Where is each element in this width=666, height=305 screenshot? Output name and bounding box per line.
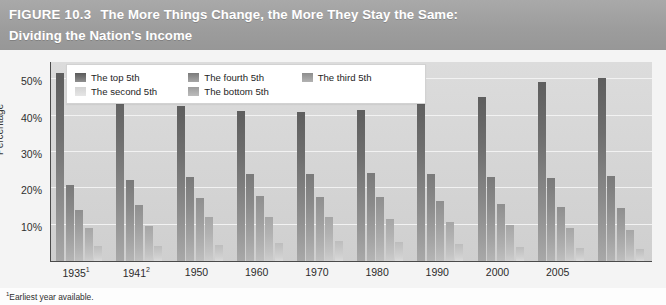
bar	[85, 228, 93, 261]
bar	[417, 100, 425, 261]
legend-swatch-icon	[75, 73, 86, 82]
bar	[427, 174, 435, 261]
legend-swatch-icon	[302, 73, 313, 82]
chart-legend: The top 5thThe fourth 5thThe third 5thTh…	[66, 64, 426, 104]
legend-swatch-icon	[188, 73, 199, 82]
bar	[75, 210, 83, 261]
legend-item-label: The third 5th	[318, 72, 372, 83]
bar	[626, 230, 634, 261]
bar	[446, 222, 454, 261]
bar	[205, 217, 213, 261]
bar	[177, 106, 185, 261]
bar-group	[478, 62, 524, 261]
bar	[497, 204, 505, 261]
legend-item[interactable]: The second 5th	[75, 86, 188, 97]
bar	[636, 249, 644, 261]
bar	[325, 217, 333, 261]
bar	[487, 177, 495, 261]
bar	[506, 225, 514, 261]
legend-swatch-icon	[188, 87, 199, 96]
y-axis-tick-label: 20%	[21, 184, 42, 196]
bar	[66, 185, 74, 261]
y-axis-tick-label: 40%	[21, 112, 42, 124]
legend-item[interactable]: The fourth 5th	[188, 72, 301, 83]
x-axis-tick-label: 2000	[467, 266, 527, 278]
figure-footnote: 1Earliest year available.	[6, 291, 94, 302]
x-axis-tick-label: 1970	[287, 266, 347, 278]
bar	[617, 208, 625, 261]
bar	[56, 73, 64, 261]
x-axis-tick-label: 1960	[227, 266, 287, 278]
y-axis-labels: 10%20%30%40%50%	[0, 62, 46, 262]
y-axis-tick-label: 50%	[21, 75, 42, 87]
bar	[436, 201, 444, 261]
x-axis-tick-label: 19351	[46, 266, 106, 279]
bar	[126, 180, 134, 261]
bar	[306, 174, 314, 261]
figure-number: FIGURE 10.3	[9, 7, 91, 22]
bar	[386, 219, 394, 261]
bar	[376, 197, 384, 261]
figure-header-text: FIGURE 10.3The More Things Change, the M…	[9, 4, 660, 46]
footnote-text: Earliest year available.	[9, 292, 93, 302]
y-axis-tick-label: 10%	[21, 221, 42, 233]
x-axis-tick-label: 1990	[407, 266, 467, 278]
legend-item[interactable]: The top 5th	[75, 72, 188, 83]
figure-title-line2: Dividing the Nation's Income	[9, 25, 660, 46]
bar	[335, 241, 343, 261]
x-axis-labels: 19351194121950196019701980199020002005	[50, 266, 652, 286]
chart-container: Percentage 10%20%30%40%50% 1935119412195…	[0, 50, 666, 288]
legend-item[interactable]: The bottom 5th	[188, 86, 301, 97]
bar	[316, 197, 324, 261]
bar	[607, 176, 615, 261]
bar	[116, 84, 124, 261]
legend-item-label: The bottom 5th	[204, 86, 269, 97]
bar	[196, 198, 204, 261]
bar	[538, 82, 546, 261]
bar	[237, 111, 245, 261]
bar	[395, 242, 403, 261]
bar-group	[538, 62, 584, 261]
bar	[598, 78, 606, 261]
bar	[547, 178, 555, 261]
bar	[246, 174, 254, 261]
bar	[557, 207, 565, 261]
x-axis-tick-label: 2005	[528, 266, 588, 278]
x-axis-tick-label: 19412	[106, 266, 166, 279]
legend-item-label: The top 5th	[91, 72, 140, 83]
bar-group	[598, 62, 644, 261]
figure-header-band: FIGURE 10.3The More Things Change, the M…	[0, 0, 666, 50]
legend-item-label: The fourth 5th	[204, 72, 264, 83]
bar	[516, 247, 524, 261]
bar	[94, 246, 102, 261]
bar	[256, 196, 264, 261]
y-axis-tick-label: 30%	[21, 148, 42, 160]
bar	[145, 226, 153, 261]
bar	[455, 244, 463, 261]
figure-10-3: FIGURE 10.3The More Things Change, the M…	[0, 0, 666, 305]
bar	[357, 110, 365, 261]
bar	[154, 246, 162, 261]
x-axis-tick-label: 1950	[166, 266, 226, 278]
bar	[275, 243, 283, 261]
bar	[265, 217, 273, 261]
bar	[576, 248, 584, 261]
legend-swatch-icon	[75, 87, 86, 96]
bar	[566, 228, 574, 261]
figure-title-line1: The More Things Change, the More They St…	[100, 7, 458, 22]
bar	[215, 245, 223, 261]
legend-item-label: The second 5th	[91, 86, 157, 97]
bar	[186, 177, 194, 261]
bar	[135, 205, 143, 261]
x-axis-tick-label: 1980	[347, 266, 407, 278]
bar	[478, 97, 486, 261]
bar	[297, 112, 305, 261]
bar	[367, 173, 375, 261]
legend-item[interactable]: The third 5th	[302, 72, 415, 83]
